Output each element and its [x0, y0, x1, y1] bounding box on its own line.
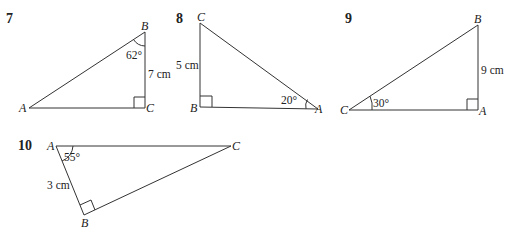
vertex-label-b: B [474, 12, 482, 26]
angle-label: 20° [281, 94, 298, 106]
vertex-label-a: A [18, 101, 27, 115]
problem-10: 10 A C B 3 cm 55° [18, 138, 241, 230]
side-label: 7 cm [148, 68, 171, 80]
problem-number: 7 [6, 11, 13, 26]
vertex-label-b: B [190, 101, 198, 115]
problem-8: 8 C B A 5 cm 20° [176, 10, 323, 116]
problem-number: 8 [176, 11, 183, 26]
angle-arc [306, 100, 308, 109]
triangle-10 [56, 146, 231, 215]
side-label: 9 cm [481, 64, 504, 76]
triangle-7 [29, 32, 145, 108]
vertex-label-c: C [232, 139, 241, 153]
problem-number: 9 [345, 11, 352, 26]
vertex-label-c: C [197, 10, 206, 24]
problem-7: 7 A B C 62° 7 cm [6, 11, 171, 115]
right-angle-marker [134, 97, 145, 108]
vertex-label-a: A [46, 139, 55, 153]
vertex-label-c: C [146, 101, 155, 115]
vertex-label-b: B [81, 216, 89, 230]
side-label: 5 cm [176, 59, 199, 71]
side-label: 3 cm [47, 179, 70, 191]
angle-label: 30° [373, 97, 390, 109]
triangle-figures: 7 A B C 62° 7 cm 8 C B A 5 cm 20° 9 B C … [0, 0, 516, 237]
vertex-label-b: B [141, 19, 149, 33]
angle-arc [134, 40, 146, 47]
vertex-label-a: A [478, 104, 487, 118]
right-angle-marker [80, 200, 95, 210]
angle-label: 55° [64, 151, 81, 163]
right-angle-marker [200, 96, 212, 107]
problem-9: 9 B C A 9 cm 30° [340, 11, 504, 118]
triangle-9 [349, 25, 478, 110]
angle-label: 62° [126, 49, 143, 61]
right-angle-marker [467, 99, 478, 110]
triangle-8 [200, 23, 318, 109]
vertex-label-c: C [340, 103, 349, 117]
vertex-label-a: A [314, 102, 323, 116]
problem-number: 10 [18, 138, 32, 153]
angle-arc [370, 96, 372, 110]
